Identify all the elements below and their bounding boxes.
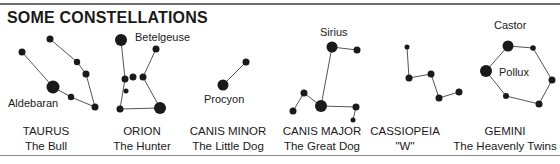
star-icon [92,104,99,111]
constellation-line [431,74,439,98]
star-label-betelgeuse: Betelgeuse [135,31,190,43]
star-icon [122,76,129,83]
constellation-line [120,79,125,109]
constellation-line [143,49,156,77]
caption-cassiopeia: CASSIOPEIA"W" [370,124,440,154]
constellation-name: CANIS MAJOR [283,124,362,139]
caption-orion: ORIONThe Hunter [113,124,171,154]
constellation-line [71,97,95,107]
constellation-subtitle: The Great Dog [283,139,362,154]
constellation-subtitle: The Bull [23,139,69,154]
star-icon [154,102,166,114]
star-icon [19,49,26,56]
star-icon [124,89,129,94]
star-icon [549,77,556,84]
constellation-name: ORION [113,124,171,139]
constellation-subtitle: "W" [370,139,440,154]
constellation-line [506,96,539,104]
constellation-line [50,39,77,62]
constellation-line [539,80,552,104]
star-icon [117,106,124,113]
star-label-castor: Castor [494,19,526,31]
star-icon [354,47,361,54]
star-icon [218,80,229,91]
star-icon [327,42,338,53]
constellation-cassiopeia [405,45,463,102]
constellation-subtitle: The Hunter [113,139,171,154]
star-icon [47,36,54,43]
constellation-line [533,48,552,80]
constellation-canis-minor [218,59,250,91]
star-icon [480,65,492,77]
star-icon [351,118,356,123]
star-icon [115,34,127,46]
star-icon [130,74,137,81]
constellation-canis-major [290,42,361,123]
constellation-line [407,47,409,78]
caption-taurus: TAURUSThe Bull [23,124,69,154]
star-icon [153,46,160,53]
star-icon [428,71,435,78]
star-icon [243,59,250,66]
star-icon [530,45,536,51]
star-label-pollux: Pollux [499,66,529,78]
star-icon [290,108,297,115]
star-icon [74,59,80,65]
star-icon [405,45,410,50]
constellation-name: CANIS MINOR [190,124,267,139]
constellation-name: CASSIOPEIA [370,124,440,139]
star-label-aldebaran: Aldebaran [8,97,58,109]
constellation-name: TAURUS [23,124,69,139]
constellation-orion [115,34,166,114]
caption-gemini: GEMINIThe Heavenly Twins [453,124,556,154]
star-label-sirius: Sirius [320,26,348,38]
constellation-line [321,47,332,106]
constellation-line [120,108,160,109]
star-icon [406,75,413,82]
star-icon [353,104,360,111]
constellation-name: GEMINI [453,124,556,139]
bottom-rule [0,155,560,156]
caption-canis-major: CANIS MAJORThe Great Dog [283,124,362,154]
star-icon [83,71,90,78]
caption-canis-minor: CANIS MINORThe Little Dog [190,124,267,154]
constellation-line [86,74,95,107]
star-icon [47,81,60,94]
constellation-subtitle: The Little Dog [190,139,267,154]
constellation-line [22,52,53,87]
constellation-subtitle: The Heavenly Twins [453,139,556,154]
star-icon [140,74,147,81]
star-icon [301,90,308,97]
star-label-procyon: Procyon [204,93,244,105]
star-icon [503,93,509,99]
star-icon [436,95,443,102]
star-icon [68,94,74,100]
star-icon [456,89,463,96]
star-icon [315,100,327,112]
star-icon [536,101,543,108]
star-icon [503,41,514,52]
